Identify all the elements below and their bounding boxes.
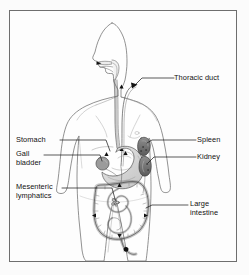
label-kidney: Kidney	[197, 153, 220, 162]
body-outline	[57, 23, 171, 261]
label-large-intestine-line2: intestine	[190, 209, 218, 218]
label-thoracic-duct: Thoracic duct	[174, 74, 219, 83]
spleen	[138, 137, 151, 155]
leader-large-intestine	[146, 205, 188, 208]
leader-thoracic-duct	[136, 78, 174, 84]
label-mesenteric-line2: lymphatics	[16, 192, 52, 201]
anatomy-figure: Thoracic duct Stomach Gall bladder Mesen…	[0, 0, 249, 275]
label-spleen: Spleen	[197, 136, 220, 145]
label-stomach: Stomach	[16, 136, 46, 145]
label-gall-bladder-line2: bladder	[16, 159, 41, 168]
